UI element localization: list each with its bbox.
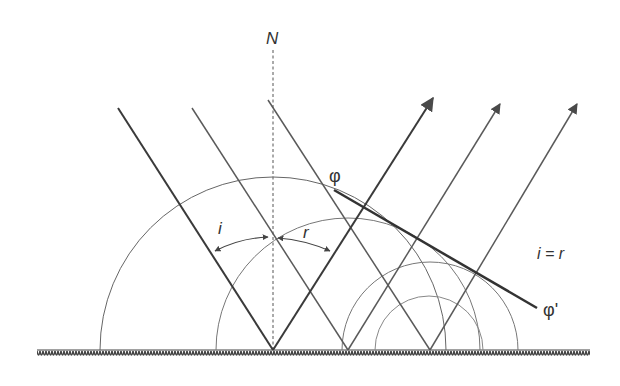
incidence-angle-label: i	[218, 219, 223, 238]
reflecting-surface	[37, 349, 590, 357]
wavefront-start-label: φ	[329, 166, 341, 186]
law-of-reflection-label: i = r	[537, 245, 565, 262]
huygens-wavelets	[100, 177, 518, 350]
normal-label: N	[266, 29, 279, 48]
wavefront-end-label: φ'	[543, 300, 558, 320]
reflected-rays	[273, 98, 577, 350]
reflection-diagram: N i r φ φ' i = r	[0, 0, 620, 386]
incident-rays	[118, 100, 430, 350]
reflection-angle-label: r	[303, 223, 310, 242]
